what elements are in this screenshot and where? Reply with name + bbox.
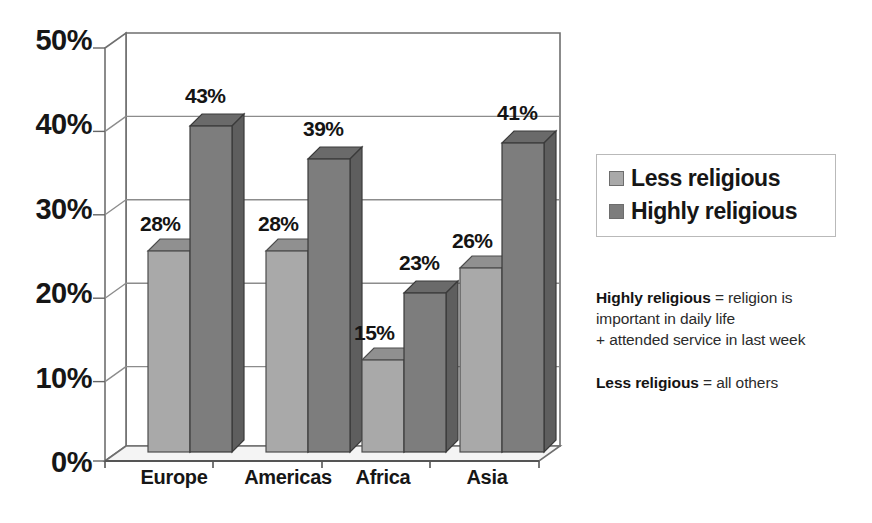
bar-value-label: 28%: [258, 212, 299, 236]
legend-swatch-icon: [609, 204, 624, 219]
plot-area: [0, 0, 600, 523]
bar-europe-highly-religious: [190, 114, 244, 452]
x-tick-label-americas: Americas: [228, 466, 348, 489]
bar-value-label: 39%: [303, 117, 344, 141]
annotation-less-religious: Less religious = all others: [596, 372, 868, 393]
annotation-line: + attended service in last week: [596, 329, 868, 350]
bar-value-label: 26%: [452, 229, 493, 253]
bar-value-label: 23%: [399, 251, 440, 275]
legend-item-highly-religious: Highly religious: [609, 195, 825, 228]
annotation-term: Highly religious: [596, 289, 711, 306]
annotation-highly-religious: Highly religious = religion is important…: [596, 287, 868, 350]
annotation-term: Less religious: [596, 374, 699, 391]
bar-americas-highly-religious: [308, 147, 362, 452]
legend-swatch-icon: [609, 171, 624, 186]
annotation-line: = all others: [699, 374, 778, 391]
x-axis: Europe Americas Africa Asia: [0, 466, 600, 506]
legend-item-less-religious: Less religious: [609, 162, 825, 195]
bar-value-label: 15%: [354, 321, 395, 345]
bar-value-label: 41%: [497, 101, 538, 125]
bar-value-label: 43%: [185, 84, 226, 108]
x-tick-label-africa: Africa: [333, 466, 433, 489]
chart-figure: 50% 40% 30% 20% 10% 0%: [0, 0, 872, 523]
plot-left-wall: [105, 33, 126, 461]
legend-label: Less religious: [631, 165, 780, 192]
x-tick-label-asia: Asia: [437, 466, 537, 489]
bar-value-label: 28%: [140, 212, 181, 236]
bar-africa-highly-religious: [404, 281, 458, 452]
legend-label: Highly religious: [631, 198, 797, 225]
annotation-line: = religion is: [711, 289, 793, 306]
annotation-line: important in daily life: [596, 308, 868, 329]
chart-annotations: Highly religious = religion is important…: [596, 287, 868, 393]
x-tick-label-europe: Europe: [119, 466, 229, 489]
chart-legend: Less religious Highly religious: [596, 154, 836, 237]
bar-asia-highly-religious: [502, 131, 556, 452]
